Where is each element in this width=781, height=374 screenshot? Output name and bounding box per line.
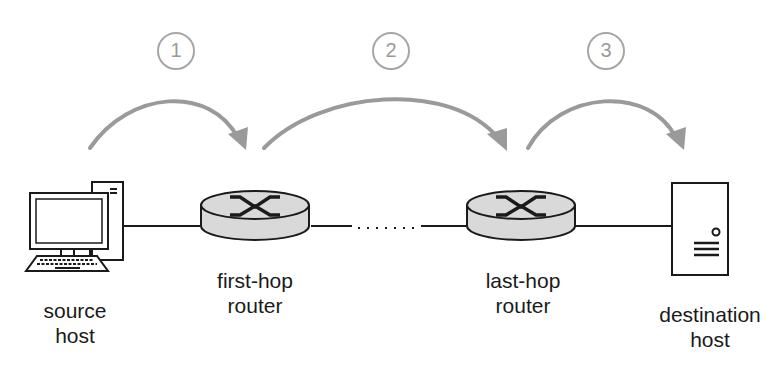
- step-number-3: 3: [588, 38, 624, 63]
- last-hop-router-label-line2: router: [463, 293, 583, 318]
- last-hop-router-label-line1: last-hop: [463, 268, 583, 293]
- destination-host-label-line2: host: [645, 327, 775, 352]
- last-hop-router-label: last-hop router: [463, 268, 583, 318]
- network-path-diagram: 1 2 3 source host first-hop router last-…: [0, 0, 781, 374]
- router-icon: [467, 191, 575, 240]
- first-hop-router-label-line2: router: [195, 293, 315, 318]
- source-host-label-line1: source: [20, 298, 130, 323]
- destination-host-label: destination host: [645, 302, 775, 352]
- step-number-1: 1: [158, 38, 194, 63]
- destination-host-label-line1: destination: [645, 302, 775, 327]
- server-icon: [672, 183, 728, 275]
- first-hop-router-label: first-hop router: [195, 268, 315, 318]
- desktop-computer-icon: [26, 182, 123, 271]
- first-hop-router-label-line1: first-hop: [195, 268, 315, 293]
- router-icon: [201, 191, 309, 240]
- hop-arrow-2: [264, 99, 507, 151]
- source-host-label-line2: host: [20, 323, 130, 348]
- source-host-label: source host: [20, 298, 130, 348]
- hop-arrow-3: [528, 101, 686, 150]
- step-number-2: 2: [373, 38, 409, 63]
- hop-arrow-1: [90, 101, 248, 150]
